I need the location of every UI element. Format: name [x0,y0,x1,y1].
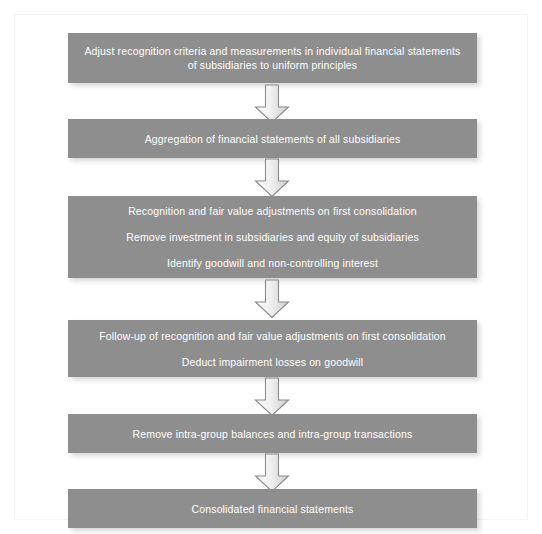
diagram-page: Adjust recognition criteria and measurem… [0,0,542,534]
flow-node-text: Follow-up of recognition and fair value … [85,329,460,343]
flow-node-text: Deduct impairment losses on goodwill [168,355,378,369]
flow-node-follow-up-and-impairment: Follow-up of recognition and fair value … [68,320,477,377]
flow-node-text: Identify goodwill and non-controlling in… [153,256,392,270]
down-block-arrow-icon [254,279,290,319]
down-block-arrow-icon [254,84,290,124]
down-block-arrow-icon [254,453,290,493]
flow-node-text: Aggregation of financial statements of a… [131,132,415,146]
flow-node-consolidated-financial-statements: Consolidated financial statements [68,489,477,528]
flow-node-aggregation-of-financial-statements: Aggregation of financial statements of a… [68,119,477,158]
flow-node-text: Recognition and fair value adjustments o… [114,204,431,218]
flow-node-remove-intra-group-balances: Remove intra-group balances and intra-gr… [68,414,477,453]
flow-node-first-consolidation-adjustments: Recognition and fair value adjustments o… [68,196,477,278]
flow-node-text: Consolidated financial statements [178,502,368,516]
flow-node-adjust-recognition-criteria: Adjust recognition criteria and measurem… [68,33,477,83]
flow-node-text: Remove intra-group balances and intra-gr… [119,427,427,441]
flow-node-text: Adjust recognition criteria and measurem… [70,44,474,72]
down-block-arrow-icon [254,377,290,417]
down-block-arrow-icon [254,158,290,198]
flowchart: Adjust recognition criteria and measurem… [0,0,542,534]
flow-node-text: Remove investment in subsidiaries and eq… [112,230,433,244]
